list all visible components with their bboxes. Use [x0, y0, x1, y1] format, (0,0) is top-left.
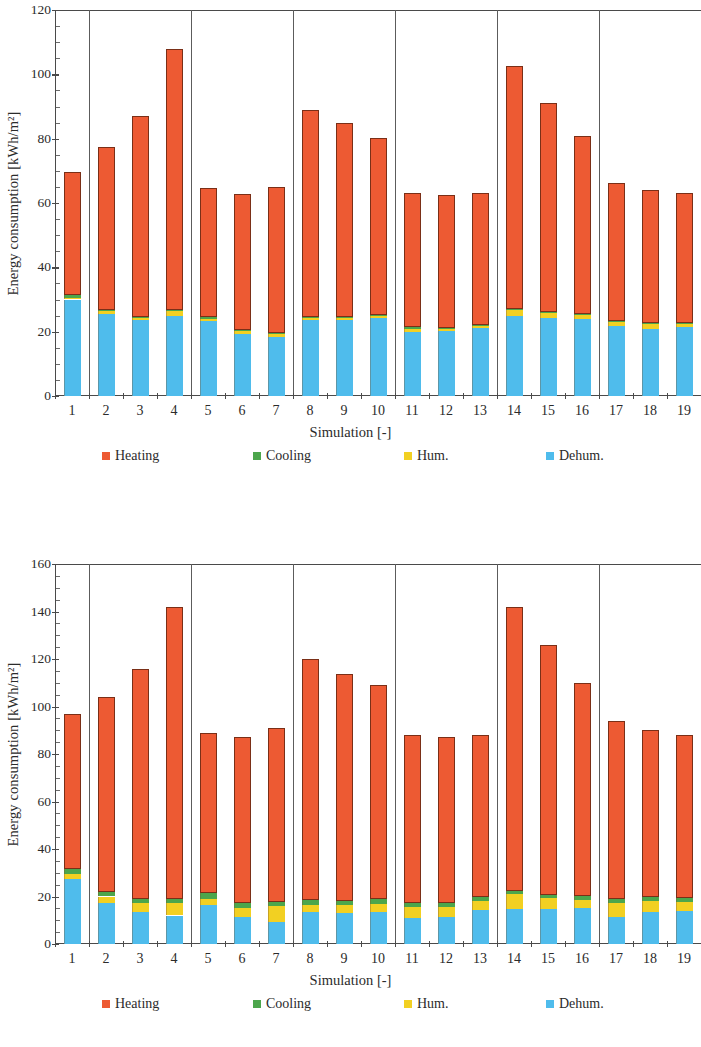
x-tick [429, 941, 430, 947]
x-tick-label: 1 [69, 403, 76, 419]
x-tick-label: 13 [473, 951, 487, 967]
x-tick [191, 941, 192, 947]
group-separator [89, 564, 90, 944]
bar [132, 564, 149, 944]
bar-segment-cooling [642, 897, 659, 901]
x-tick-label: 8 [307, 951, 314, 967]
x-tick-label: 10 [371, 951, 385, 967]
legend-label: Dehum. [559, 448, 604, 464]
y-tick-label: 100 [31, 700, 51, 714]
legend-item-hum[interactable]: Hum. [404, 448, 449, 464]
y-tick-minor [56, 623, 60, 624]
legend-label: Dehum. [559, 996, 604, 1012]
bar-segment-hum [438, 329, 455, 331]
legend-swatch-cooling-icon [253, 1000, 261, 1008]
bar-segment-dehum [268, 922, 285, 944]
x-tick-label: 12 [439, 403, 453, 419]
bar-segment-heating [234, 737, 251, 903]
bar-segment-heating [540, 645, 557, 895]
x-tick [89, 941, 90, 947]
y-tick-label: 80 [38, 747, 52, 761]
y-tick-major [52, 897, 59, 898]
bar [234, 10, 251, 396]
y-axis-ticks: 020406080100120140160 [21, 564, 51, 944]
bar-segment-dehum [404, 332, 421, 396]
bar-segment-heating [370, 685, 387, 899]
x-tick [327, 393, 328, 399]
bar [642, 564, 659, 944]
x-tick [429, 393, 430, 399]
bar-segment-hum [132, 903, 149, 913]
bar-segment-hum [676, 324, 693, 327]
y-tick-label: 60 [38, 795, 52, 809]
bar [642, 10, 659, 396]
bar [506, 10, 523, 396]
bar [608, 10, 625, 396]
bar-segment-heating [472, 735, 489, 897]
legend-item-cooling[interactable]: Cooling [253, 996, 311, 1012]
bar-segment-dehum [200, 321, 217, 396]
x-tick [225, 941, 226, 947]
bar-segment-hum [268, 906, 285, 922]
legend-item-cooling[interactable]: Cooling [253, 448, 311, 464]
y-tick-label: 140 [31, 605, 51, 619]
bar-segment-dehum [404, 918, 421, 944]
x-tick [123, 941, 124, 947]
bar-segment-dehum [268, 337, 285, 396]
bar [336, 564, 353, 944]
bar [234, 564, 251, 944]
y-tick-minor [56, 683, 60, 684]
x-tick-label: 14 [507, 403, 521, 419]
bar-segment-dehum [132, 912, 149, 944]
x-tick-label: 2 [103, 951, 110, 967]
bar-segment-dehum [472, 328, 489, 396]
x-tick-label: 18 [643, 951, 657, 967]
y-tick-minor [56, 742, 60, 743]
bar [404, 564, 421, 944]
bar-segment-cooling [132, 899, 149, 903]
y-tick-minor [56, 908, 60, 909]
legend-item-dehum[interactable]: Dehum. [546, 996, 604, 1012]
legend-label: Heating [115, 996, 159, 1012]
y-axis-title-text: Energy consumption [kWh/m²] [6, 111, 23, 295]
y-tick-major [52, 332, 59, 333]
legend-label: Cooling [266, 996, 311, 1012]
bar-segment-hum [540, 898, 557, 909]
y-tick-major [52, 139, 59, 140]
group-separator [89, 10, 90, 396]
x-axis-title: Simulation [-] [0, 424, 701, 441]
bar-segment-hum [64, 874, 81, 880]
y-tick-minor [56, 813, 60, 814]
y-tick-major [52, 802, 59, 803]
bar-segment-cooling [472, 897, 489, 901]
x-tick [463, 941, 464, 947]
bar [438, 564, 455, 944]
legend-item-heating[interactable]: Heating [102, 448, 159, 464]
bar-segment-cooling [302, 900, 319, 905]
bar-segment-cooling [370, 315, 387, 316]
x-tick [327, 941, 328, 947]
legend-item-heating[interactable]: Heating [102, 996, 159, 1012]
legend-item-dehum[interactable]: Dehum. [546, 448, 604, 464]
x-tick [497, 941, 498, 947]
y-tick-minor [56, 90, 60, 91]
bar-segment-hum [540, 313, 557, 318]
bar-segment-hum [676, 902, 693, 911]
bar-segment-hum [166, 311, 183, 316]
x-tick-label: 16 [575, 403, 589, 419]
legend-item-hum[interactable]: Hum. [404, 996, 449, 1012]
x-tick-label: 15 [541, 951, 555, 967]
bar-segment-cooling [336, 901, 353, 905]
x-tick [361, 941, 362, 947]
bar [98, 10, 115, 396]
plot-area: Energy consumption [kWh/m²]0204060801001… [0, 548, 701, 1047]
bar-segment-heating [336, 123, 353, 317]
x-tick [565, 393, 566, 399]
y-tick-minor [56, 123, 60, 124]
bar [438, 10, 455, 396]
bar-segment-dehum [438, 331, 455, 396]
legend-label: Heating [115, 448, 159, 464]
y-tick-major [52, 564, 59, 565]
x-tick [531, 393, 532, 399]
x-tick-label: 4 [171, 403, 178, 419]
